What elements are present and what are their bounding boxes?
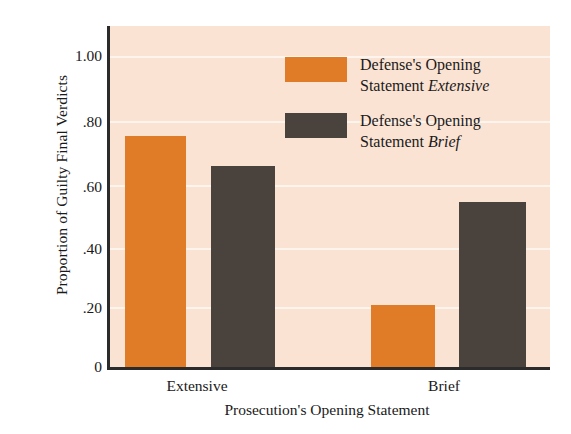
x-tick-label-extensive: Extensive xyxy=(166,377,227,395)
legend: Defense's Opening Statement Extensive De… xyxy=(285,54,545,166)
legend-label-brief: Defense's Opening Statement Brief xyxy=(360,110,481,152)
bar-brief-extensive xyxy=(371,305,435,367)
legend-item-brief: Defense's Opening Statement Brief xyxy=(285,110,545,152)
legend-label-extensive: Defense's Opening Statement Extensive xyxy=(360,54,489,96)
bar-extensive-extensive xyxy=(125,136,186,367)
bar-chart-figure: Proportion of Guilty Final Verdicts 1.00… xyxy=(0,0,571,434)
legend-swatch-extensive xyxy=(285,57,347,82)
bar-extensive-brief xyxy=(211,166,275,367)
y-tick-label: .80 xyxy=(50,113,102,131)
legend-swatch-brief xyxy=(285,113,347,138)
plot-area: Defense's Opening Statement Extensive De… xyxy=(107,26,550,370)
y-axis-tick-labels: 1.00 .80 .60 .40 .20 0 xyxy=(46,0,102,434)
y-tick-label: .40 xyxy=(50,240,102,258)
legend-label-line2-prefix: Statement xyxy=(360,133,428,150)
legend-label-line2-prefix: Statement xyxy=(360,77,428,94)
legend-label-line2-emphasis: Brief xyxy=(428,133,460,150)
legend-item-extensive: Defense's Opening Statement Extensive xyxy=(285,54,545,96)
y-tick-label: .20 xyxy=(50,299,102,317)
y-tick-label: 1.00 xyxy=(50,47,102,65)
x-axis-title: Prosecution's Opening Statement xyxy=(107,401,547,419)
y-tick-label: 0 xyxy=(50,358,102,376)
legend-label-line2-emphasis: Extensive xyxy=(428,77,489,94)
bar-brief-brief xyxy=(459,202,526,367)
x-tick-label-brief: Brief xyxy=(428,377,460,395)
legend-label-line1: Defense's Opening xyxy=(360,112,481,129)
legend-label-line1: Defense's Opening xyxy=(360,56,481,73)
y-tick-label: .60 xyxy=(50,178,102,196)
